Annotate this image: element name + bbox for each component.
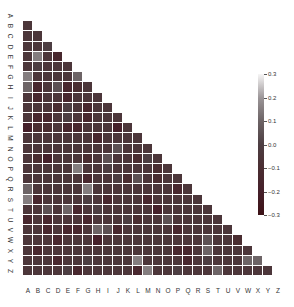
heatmap-cell [23,174,33,184]
heatmap-cell [33,266,43,276]
column-label: K [123,287,133,294]
column-label: U [223,287,233,294]
heatmap-cell [73,93,83,103]
heatmap-cell [113,123,123,133]
heatmap-cell [133,266,143,276]
heatmap-cell [53,82,63,92]
colorbar-tick-label: 0.0 [268,141,276,149]
row-label: L [5,123,15,133]
column-label: W [243,287,253,294]
heatmap-cell [153,266,163,276]
row-label: R [5,184,15,194]
heatmap-cell [53,113,63,123]
column-label: I [103,287,113,294]
heatmap-cell [33,133,43,143]
heatmap-cell [43,184,53,194]
heatmap-cell [43,164,53,174]
colorbar-tick [264,215,267,216]
heatmap-cell [93,123,103,133]
row-label: Z [5,266,15,276]
row-label: A [5,11,15,21]
heatmap-cell [83,184,93,194]
heatmap-cell [23,235,33,245]
heatmap-cell [163,164,173,174]
heatmap-cell [43,42,53,52]
column-label: F [73,287,83,294]
heatmap-cell [143,266,153,276]
colorbar-tick-label: −0.1 [268,164,280,172]
heatmap-cell [173,174,183,184]
heatmap-cell [43,113,53,123]
colorbar-tick [264,168,267,169]
heatmap-cell [203,215,213,225]
row-label: H [5,82,15,92]
heatmap-cell [53,266,63,276]
heatmap-cell [73,123,83,133]
heatmap-cell [93,133,103,143]
heatmap-cell [213,266,223,276]
heatmap-cell [143,246,153,256]
heatmap-cell [33,164,43,174]
colorbar-tick [264,121,267,122]
row-label: G [5,72,15,82]
heatmap-cell [133,215,143,225]
column-label: S [203,287,213,294]
heatmap-cell [103,266,113,276]
heatmap-cell [83,144,93,154]
colorbar-tick [264,192,267,193]
heatmap-cell [33,31,43,41]
heatmap-cell [63,144,73,154]
colorbar-tick-label: −0.3 [268,211,280,219]
heatmap-cell [253,266,263,276]
column-label: X [253,287,263,294]
row-label: J [5,103,15,113]
row-label: D [5,42,15,52]
heatmap-cell [93,113,103,123]
row-label: F [5,62,15,72]
heatmap-cell [43,82,53,92]
row-label: O [5,154,15,164]
heatmap-cell [33,82,43,92]
heatmap-cell [233,235,243,245]
row-label: C [5,31,15,41]
heatmap-cell [203,235,213,245]
colorbar-tick [264,145,267,146]
heatmap-cell [83,246,93,256]
heatmap-cell [53,103,63,113]
heatmap-cell [73,205,83,215]
heatmap-cell [103,174,113,184]
heatmap-cell [153,225,163,235]
heatmap-cell [143,195,153,205]
heatmap-cell [93,205,103,215]
column-label: B [33,287,43,294]
heatmap-cell [53,133,63,143]
heatmap-cell [123,184,133,194]
heatmap-cell [63,93,73,103]
heatmap-cell [23,21,33,31]
heatmap-cell [73,103,83,113]
heatmap-cell [133,184,143,194]
column-label: Y [263,287,273,294]
heatmap-cell [43,256,53,266]
heatmap-cell [93,154,103,164]
heatmap-cell [63,174,73,184]
heatmap-cell [23,154,33,164]
heatmap-cell [63,215,73,225]
heatmap-cell [153,154,163,164]
heatmap-cell [173,205,183,215]
heatmap-cell [183,184,193,194]
heatmap-cell [213,246,223,256]
heatmap-cell [163,225,173,235]
heatmap-cell [153,184,163,194]
heatmap-cell [173,235,183,245]
heatmap-cell [173,225,183,235]
heatmap-cell [63,195,73,205]
heatmap-cell [53,225,63,235]
heatmap-cell [43,235,53,245]
heatmap-cell [133,164,143,174]
heatmap-cell [213,235,223,245]
heatmap-cell [53,246,63,256]
heatmap-cell [203,246,213,256]
column-label: N [153,287,163,294]
heatmap-cell [23,144,33,154]
